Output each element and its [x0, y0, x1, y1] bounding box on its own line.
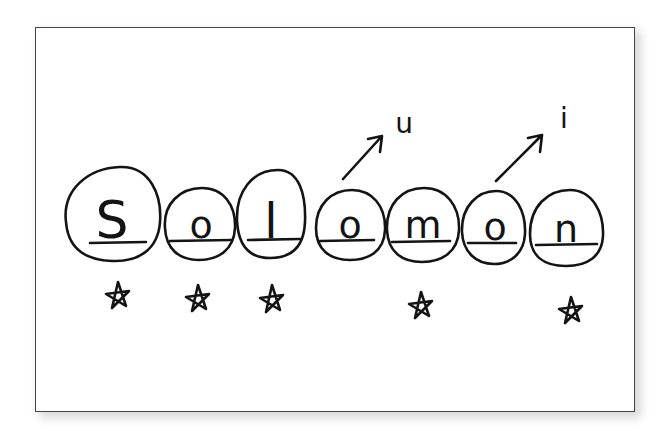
stars [106, 282, 582, 323]
underline [90, 242, 146, 243]
star-icon [559, 297, 582, 323]
underline [536, 244, 597, 245]
underline [320, 240, 374, 241]
star-icon [186, 285, 209, 311]
underline [248, 239, 300, 240]
arrows [343, 135, 542, 181]
handwritten-name-drawing: S o l o m o n u i [0, 0, 670, 431]
underline [170, 240, 232, 241]
arrow-to-i [496, 135, 542, 181]
annotation-u: u [395, 107, 413, 140]
underline [392, 241, 450, 242]
star-icon [409, 292, 432, 318]
letter-1: S [95, 190, 128, 250]
annotation-i: i [560, 102, 568, 135]
arrow-to-u [343, 136, 382, 179]
star-icon [106, 282, 129, 308]
star-icon [260, 285, 283, 312]
letter-circles [66, 167, 603, 266]
